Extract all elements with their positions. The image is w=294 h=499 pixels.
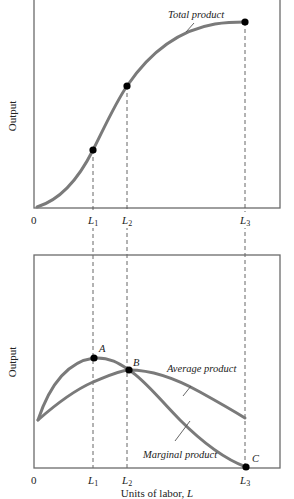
average-product-label: Average product	[166, 363, 237, 374]
bottom-origin-label: 0	[31, 474, 37, 486]
top-y-axis-label: Output	[6, 101, 18, 132]
bottom-chart-frame	[34, 255, 280, 468]
bottom-tick-l2: L2	[121, 474, 132, 488]
point-b-label: B	[133, 357, 140, 368]
x-axis-title: Units of labor, L	[121, 487, 193, 499]
point-b	[125, 366, 132, 373]
total-product-curve	[37, 22, 245, 207]
point-c	[242, 463, 249, 470]
tp-point-l1	[89, 146, 96, 153]
tp-point-l3	[241, 18, 248, 25]
production-charts: Total product Output 0 L1 L2 L3 L1 L2 L3…	[0, 0, 294, 499]
point-a	[90, 354, 97, 361]
point-a-label: A	[98, 343, 106, 354]
tp-point-l2	[123, 82, 130, 89]
average-product-curve	[38, 370, 245, 420]
point-c-label: C	[252, 453, 260, 464]
bottom-y-axis-label: Output	[6, 347, 18, 378]
average-marginal-product-chart: A B C Average product Marginal product O…	[6, 255, 280, 499]
top-chart-frame	[34, 0, 280, 208]
bottom-tick-l3: L3	[239, 474, 250, 488]
bottom-tick-l1: L1	[87, 474, 98, 488]
marginal-product-label: Marginal product	[142, 449, 218, 460]
total-product-label: Total product	[168, 9, 225, 20]
average-product-leader	[183, 386, 191, 396]
top-origin-label: 0	[31, 214, 37, 226]
